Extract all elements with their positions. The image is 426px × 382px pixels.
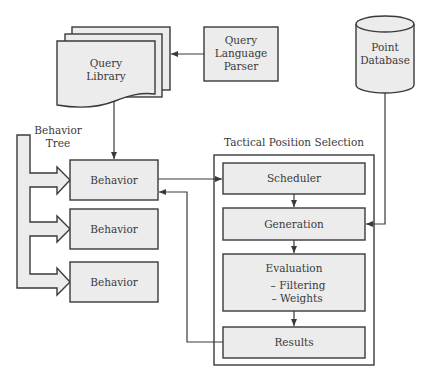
tps-title: Tactical Position Selection	[224, 136, 364, 148]
point-database: Point Database	[356, 16, 414, 93]
evaluation-stage: Evaluation – Filtering – Weights	[223, 254, 365, 311]
parser-label-line3: Parser	[224, 60, 259, 72]
point-database-label-line1: Point	[371, 41, 399, 53]
behavior-2: Behavior	[70, 209, 158, 249]
evaluation-item-filtering: – Filtering	[271, 279, 326, 291]
behavior-tree-label-line1: Behavior	[34, 124, 83, 136]
query-library-label-line2: Library	[86, 70, 125, 82]
scheduler-label: Scheduler	[267, 172, 322, 184]
behavior-2-label: Behavior	[90, 223, 139, 235]
evaluation-item-weights: – Weights	[271, 292, 322, 304]
generation-stage: Generation	[223, 208, 365, 240]
tactical-position-diagram: Query Library Query Language Parser Poin…	[0, 0, 426, 382]
point-database-label-line2: Database	[360, 54, 410, 66]
scheduler-stage: Scheduler	[223, 163, 365, 194]
query-library-label-line1: Query	[90, 57, 123, 69]
evaluation-label: Evaluation	[266, 262, 323, 274]
parser-label-line2: Language	[215, 47, 268, 59]
behavior-1: Behavior	[70, 160, 158, 200]
behavior-tree-label-line2: Tree	[46, 137, 70, 149]
query-language-parser: Query Language Parser	[204, 27, 278, 81]
behavior-3: Behavior	[70, 262, 158, 302]
point-database-top	[356, 16, 414, 32]
results-label: Results	[274, 336, 313, 348]
behavior-1-label: Behavior	[90, 174, 139, 186]
parser-label-line1: Query	[225, 34, 258, 46]
query-library: Query Library	[57, 27, 170, 107]
generation-label: Generation	[264, 218, 324, 230]
behavior-3-label: Behavior	[90, 276, 139, 288]
results-stage: Results	[223, 327, 365, 358]
behavior-tree-branches	[17, 135, 70, 295]
